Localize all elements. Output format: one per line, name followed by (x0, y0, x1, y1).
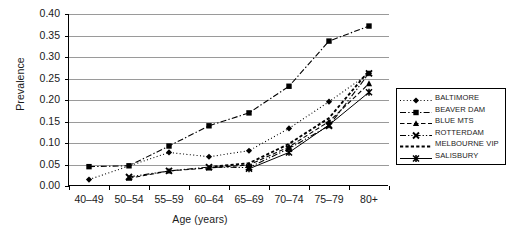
legend-item-rotterdam[interactable]: ROTTERDAM (399, 127, 502, 139)
legend-swatch-diamond-icon (399, 92, 433, 103)
legend-label: BALTIMORE (433, 93, 479, 102)
data-point (206, 154, 212, 160)
legend-label: ROTTERDAM (433, 128, 484, 137)
x-tick-mark (229, 186, 230, 190)
y-tick-label: 0.40 (30, 7, 60, 19)
legend-item-blue-mts[interactable]: BLUE MTS (399, 115, 502, 127)
data-point (86, 164, 91, 169)
legend-label: SALISBURY (433, 151, 478, 160)
data-point (326, 38, 331, 43)
x-tick-mark (309, 186, 310, 190)
legend-label: BLUE MTS (433, 116, 474, 125)
x-axis-title: Age (years) (0, 213, 400, 225)
x-tick-mark (269, 186, 270, 190)
legend-label: MELBOURNE VIP (433, 139, 499, 148)
x-tick-mark (389, 186, 390, 190)
data-point (206, 123, 211, 128)
data-series-layer (69, 14, 389, 186)
x-tick-label: 80+ (346, 193, 392, 205)
legend-swatch-square-icon (399, 104, 433, 115)
legend-item-baltimore[interactable]: BALTIMORE (399, 92, 502, 104)
data-point (86, 176, 92, 182)
data-point (246, 148, 252, 154)
x-tick-mark (149, 186, 150, 190)
y-tick-label: 0.30 (30, 50, 60, 62)
y-axis-title: Prevalence (14, 38, 26, 130)
chart-legend: BALTIMOREBEAVER DAMBLUE MTSROTTERDAMMELB… (396, 88, 506, 165)
legend-swatch-x-cross-icon (399, 127, 433, 138)
y-tick-label: 0.25 (30, 72, 60, 84)
y-tick-label: 0.05 (30, 158, 60, 170)
legend-swatch-asterisk-icon (399, 150, 433, 161)
y-tick-label: 0.10 (30, 136, 60, 148)
data-point (286, 149, 292, 156)
data-point (366, 89, 372, 96)
data-point (366, 23, 371, 28)
legend-item-beaver-dam[interactable]: BEAVER DAM (399, 104, 502, 116)
legend-item-melbourne-vip[interactable]: MELBOURNE VIP (399, 138, 502, 150)
y-tick-label: 0.20 (30, 93, 60, 105)
data-point (246, 110, 251, 115)
data-point (286, 125, 292, 131)
series-line-rotterdam (129, 73, 369, 177)
prevalence-by-age-chart: Prevalence Age (years) 0.000.050.100.150… (0, 0, 510, 248)
plot-area: 0.000.050.100.150.200.250.300.350.40 40–… (68, 14, 388, 186)
series-line-beaver-dam (89, 26, 369, 167)
y-tick-label: 0.35 (30, 29, 60, 41)
x-tick-mark (349, 186, 350, 190)
data-point (166, 149, 172, 155)
data-point (166, 143, 171, 148)
y-tick-label: 0.15 (30, 115, 60, 127)
data-point (286, 84, 291, 89)
legend-swatch-none-icon (399, 138, 433, 149)
x-tick-mark (69, 186, 70, 190)
y-tick-label: 0.00 (30, 179, 60, 191)
x-tick-mark (189, 186, 190, 190)
data-point (413, 110, 418, 115)
x-tick-mark (109, 186, 110, 190)
data-point (366, 80, 372, 86)
legend-item-salisbury[interactable]: SALISBURY (399, 150, 502, 162)
legend-label: BEAVER DAM (433, 105, 485, 114)
legend-swatch-triangle-icon (399, 115, 433, 126)
data-point (126, 163, 131, 168)
